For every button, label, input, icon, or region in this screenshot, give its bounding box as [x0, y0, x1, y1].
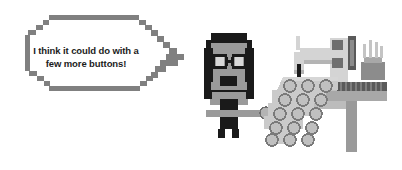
glasses-left-lens [216, 57, 224, 66]
table-leg [346, 101, 357, 152]
bubble-corner-br-a [140, 81, 147, 86]
glasses-right-lens [235, 57, 243, 66]
bubble-corner-tl-a [43, 20, 49, 25]
pixel-art-scene: I think it could do with a few more butt… [0, 0, 402, 170]
character-mouth [220, 76, 237, 86]
button [297, 94, 309, 106]
bubble-corner-tl-b [36, 25, 43, 30]
bubble-border-top [49, 15, 139, 20]
thread-strand-3 [375, 42, 378, 58]
button [288, 122, 300, 134]
bubble-tail-d [160, 60, 178, 66]
bubble-corner-tr-c [151, 30, 158, 36]
scene-canvas [0, 0, 402, 170]
button [315, 94, 327, 106]
machine-arm-shadow [300, 60, 332, 64]
bubble-tail-e [155, 66, 166, 72]
thread-strand-4 [380, 46, 383, 58]
machine-handwheel-hub [350, 40, 354, 66]
machine-spool-pin [296, 36, 300, 50]
glasses-right-top [232, 54, 246, 57]
thread-spool-body [361, 62, 385, 80]
button [302, 134, 314, 146]
machine-dial-upper [332, 40, 343, 50]
button [292, 108, 304, 120]
button [270, 122, 282, 134]
bubble-tail-f [151, 72, 158, 78]
glasses-right-bottom [232, 66, 246, 69]
character-hair-top [211, 33, 247, 40]
bubble-border-bottom [49, 86, 140, 91]
bubble-corner-bl-c [44, 81, 50, 86]
bubble-tail-a [169, 48, 177, 54]
bubble-corner-tr-d [157, 36, 164, 42]
character-arm-rod [206, 110, 262, 117]
bubble-corner-tr-b [145, 25, 152, 30]
button [302, 80, 314, 92]
character-leg-right [232, 129, 239, 138]
character-shoulder-left-dark [204, 92, 212, 99]
glasses-bridge [227, 60, 232, 63]
bubble-corner-bl-a [29, 71, 37, 76]
glasses-left-top [213, 54, 227, 57]
button [266, 134, 278, 146]
bubble-corner-tr-a [139, 20, 146, 25]
glasses-right-side-b [244, 57, 247, 66]
button [306, 122, 318, 134]
button [310, 108, 322, 120]
character-leg-left [218, 129, 225, 138]
bubble-corner-tr-e [163, 42, 170, 48]
thread-strand-1 [363, 44, 366, 58]
character-shoulder-right-dark [246, 92, 254, 99]
button [274, 108, 286, 120]
glasses-left-bottom [213, 66, 227, 69]
button [279, 94, 291, 106]
bubble-tail-b [175, 54, 184, 60]
machine-dial-lower [332, 58, 343, 68]
button [284, 134, 296, 146]
bubble-corner-tl-c [28, 30, 36, 35]
glasses-left-side-a [212, 57, 215, 66]
speech-bubble-text: I think it could do with a few more butt… [30, 44, 142, 70]
button [284, 80, 296, 92]
thread-strand-2 [369, 40, 372, 58]
bubble-corner-bl-b [37, 76, 44, 81]
thread-spool-cap [364, 57, 382, 63]
bubble-tail-c [166, 54, 175, 60]
button [320, 80, 332, 92]
